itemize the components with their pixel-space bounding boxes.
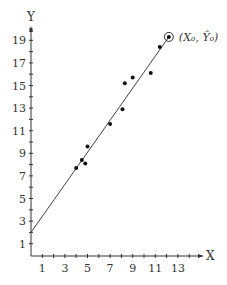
- y-tick-label: 11: [12, 125, 26, 138]
- y-tick-label: 1: [19, 238, 26, 251]
- x-tick-label: 13: [171, 262, 185, 275]
- y-tick-label: 19: [12, 34, 26, 47]
- x-tick-label: 1: [39, 262, 46, 275]
- data-point: [108, 122, 112, 126]
- ticks: 135791113135791113151719: [12, 29, 189, 275]
- axes: XY: [26, 10, 215, 263]
- y-tick-label: 13: [12, 102, 26, 115]
- point-annotation: (X₀, Ŷ₀): [179, 30, 219, 44]
- y-tick-label: 5: [19, 193, 26, 206]
- highlighted-point: (X₀, Ŷ₀): [164, 30, 218, 44]
- y-tick-label: 3: [19, 215, 26, 228]
- x-axis-label: X: [206, 249, 215, 263]
- data-point: [86, 145, 90, 149]
- y-tick-label: 9: [19, 147, 26, 160]
- x-arrow-icon: [198, 254, 204, 258]
- data-point: [131, 76, 135, 80]
- data-point: [123, 81, 127, 85]
- data-point: [149, 71, 153, 75]
- x-tick-label: 5: [84, 262, 91, 275]
- x-tick-label: 11: [148, 262, 162, 275]
- x-tick-label: 3: [61, 262, 68, 275]
- scatter-chart: XY 135791113135791113151719 (X₀, Ŷ₀): [0, 0, 227, 285]
- y-tick-label: 15: [12, 80, 26, 93]
- data-point: [80, 158, 84, 162]
- data-point: [74, 166, 78, 170]
- regression-line: [31, 37, 169, 232]
- data-point: [158, 45, 162, 49]
- x-tick-label: 9: [129, 262, 136, 275]
- data-point: [83, 161, 87, 165]
- data-points: [74, 45, 162, 170]
- y-tick-label: 17: [12, 57, 26, 70]
- y-tick-label: 7: [19, 170, 26, 183]
- data-point: [121, 107, 125, 111]
- x-tick-label: 7: [107, 262, 114, 275]
- data-point: [167, 35, 171, 39]
- y-axis-label: Y: [26, 10, 36, 24]
